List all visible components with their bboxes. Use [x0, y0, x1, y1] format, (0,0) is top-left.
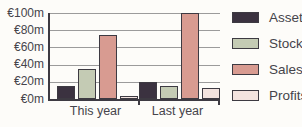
bar-stock-last-year	[160, 86, 178, 99]
legend-swatch-profits	[232, 90, 259, 101]
legend-item-profits: Profits	[232, 89, 302, 102]
y-tick-label: €20m	[0, 75, 44, 88]
legend-label: Stock	[269, 37, 302, 50]
legend-swatch-stock	[232, 38, 259, 49]
legend-swatch-sales	[232, 64, 259, 75]
x-category-label: Last year	[137, 104, 218, 118]
y-tick-label: €0m	[0, 93, 44, 106]
x-category-label: This year	[55, 104, 136, 118]
legend-label: Assets	[269, 11, 302, 24]
bar-chart: €100m€80m€60m€40m€20m€0m This yearLast y…	[0, 0, 302, 127]
bar-sales-last-year	[181, 13, 199, 99]
y-tick-label: €100m	[0, 7, 44, 20]
bar-profits-this-year	[120, 96, 138, 99]
x-axis-labels: This yearLast year	[48, 104, 218, 118]
legend-label: Profits	[269, 89, 302, 102]
bar-assets-this-year	[57, 86, 75, 99]
legend-item-assets: Assets	[232, 11, 302, 24]
plot-area	[48, 13, 220, 101]
bar-stock-this-year	[78, 69, 96, 99]
bar-assets-last-year	[139, 82, 157, 99]
bar-groups	[50, 13, 220, 99]
y-axis: €100m€80m€60m€40m€20m€0m	[0, 13, 44, 99]
x-axis-tick	[218, 101, 220, 105]
y-tick-label: €60m	[0, 41, 44, 54]
legend-item-stock: Stock	[232, 37, 302, 50]
legend: AssetsStockSalesProfits	[232, 11, 302, 102]
y-tick-label: €80m	[0, 24, 44, 37]
bar-sales-this-year	[99, 35, 117, 100]
legend-label: Sales	[269, 63, 302, 76]
y-tick-label: €40m	[0, 58, 44, 71]
bar-group-last-year	[139, 13, 220, 99]
legend-swatch-assets	[232, 12, 259, 23]
bar-profits-last-year	[202, 88, 220, 99]
bar-group-this-year	[57, 13, 138, 99]
legend-item-sales: Sales	[232, 63, 302, 76]
